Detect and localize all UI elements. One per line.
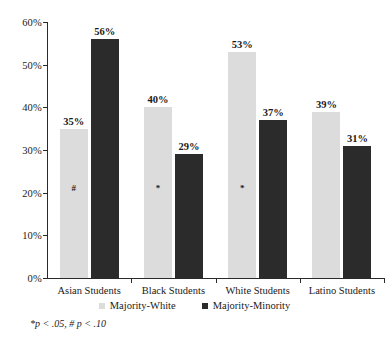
x-axis-tick bbox=[384, 278, 385, 283]
y-axis-label: 40% bbox=[22, 102, 42, 113]
y-axis-tick bbox=[43, 22, 47, 23]
bar-asian-students-majority-white: 35%# bbox=[60, 129, 88, 278]
significance-footnote: *p < .05, # p < .10 bbox=[30, 318, 106, 329]
x-axis-tick bbox=[216, 278, 217, 283]
y-axis-label: 60% bbox=[22, 17, 42, 28]
x-axis-tick bbox=[131, 278, 132, 283]
bar-asian-students-majority-minority: 56% bbox=[91, 39, 119, 278]
y-axis-tick bbox=[43, 193, 47, 194]
x-axis-category-label: White Students bbox=[225, 285, 289, 296]
chart-legend: Majority-White Majority-Minority bbox=[0, 300, 389, 311]
legend-swatch-majority-white bbox=[99, 303, 105, 309]
bar-value-label: 35% bbox=[63, 116, 84, 127]
bar-value-label: 39% bbox=[316, 99, 337, 110]
legend-label-majority-minority: Majority-Minority bbox=[213, 300, 291, 311]
bar-latino-students-majority-minority: 31% bbox=[343, 146, 371, 278]
y-axis-label: 0% bbox=[28, 273, 42, 284]
legend-swatch-majority-minority bbox=[202, 303, 208, 309]
y-axis-label: 50% bbox=[22, 59, 42, 70]
plot-area: 0%10%20%30%40%50%60%35%#56%40%*29%53%*37… bbox=[47, 22, 384, 278]
x-axis-tick bbox=[300, 278, 301, 283]
bar-value-label: 29% bbox=[178, 141, 199, 152]
significance-marker: * bbox=[240, 184, 245, 193]
bar-black-students-majority-white: 40%* bbox=[144, 107, 172, 278]
bar-value-label: 56% bbox=[94, 26, 115, 37]
bar-latino-students-majority-white: 39% bbox=[312, 112, 340, 278]
legend-item-majority-minority: Majority-Minority bbox=[202, 300, 291, 311]
y-axis-label: 30% bbox=[22, 145, 42, 156]
y-axis-tick bbox=[43, 150, 47, 151]
bar-value-label: 37% bbox=[263, 107, 284, 118]
y-axis-label: 20% bbox=[22, 187, 42, 198]
legend-label-majority-white: Majority-White bbox=[110, 300, 176, 311]
bar-value-label: 31% bbox=[347, 133, 368, 144]
bar-chart: 0%10%20%30%40%50%60%35%#56%40%*29%53%*37… bbox=[0, 0, 389, 341]
legend-item-majority-white: Majority-White bbox=[99, 300, 176, 311]
footnote-text: *p < .05, # p < .10 bbox=[30, 318, 106, 329]
bar-value-label: 40% bbox=[147, 94, 168, 105]
y-axis-tick bbox=[43, 235, 47, 236]
bar-white-students-majority-white: 53%* bbox=[228, 52, 256, 278]
x-axis-category-label: Black Students bbox=[142, 285, 205, 296]
x-axis-category-label: Latino Students bbox=[309, 285, 375, 296]
y-axis-label: 10% bbox=[22, 230, 42, 241]
significance-marker: # bbox=[71, 184, 76, 193]
y-axis-tick bbox=[43, 107, 47, 108]
significance-marker: * bbox=[156, 184, 161, 193]
bar-value-label: 53% bbox=[232, 39, 253, 50]
x-axis-category-label: Asian Students bbox=[57, 285, 120, 296]
y-axis-tick bbox=[43, 65, 47, 66]
y-axis-tick bbox=[43, 278, 47, 279]
bar-white-students-majority-minority: 37% bbox=[259, 120, 287, 278]
bar-black-students-majority-minority: 29% bbox=[175, 154, 203, 278]
